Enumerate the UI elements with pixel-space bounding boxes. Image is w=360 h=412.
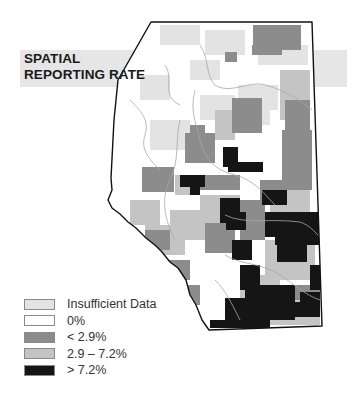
legend-label: 0% (67, 314, 85, 328)
legend-label: Insufficient Data (67, 297, 156, 311)
legend-swatch (24, 348, 55, 359)
legend-swatch (24, 332, 55, 343)
legend-item-low: < 2.9% (24, 329, 156, 346)
map-title: SPATIAL REPORTING RATE (24, 51, 145, 83)
legend-item-zero: 0% (24, 313, 156, 330)
legend-label: > 7.2% (67, 363, 106, 377)
legend-swatch (24, 365, 55, 376)
legend-label: < 2.9% (67, 330, 106, 344)
legend-label: 2.9 – 7.2% (67, 347, 127, 361)
legend-item-insufficient-data: Insufficient Data (24, 296, 156, 313)
title-line-1: SPATIAL (24, 51, 145, 67)
legend: Insufficient Data 0% < 2.9% 2.9 – 7.2% >… (24, 296, 156, 379)
legend-swatch (24, 315, 55, 326)
title-line-2: REPORTING RATE (24, 67, 145, 83)
legend-swatch (24, 299, 55, 310)
legend-item-mid: 2.9 – 7.2% (24, 346, 156, 363)
legend-item-high: > 7.2% (24, 362, 156, 379)
